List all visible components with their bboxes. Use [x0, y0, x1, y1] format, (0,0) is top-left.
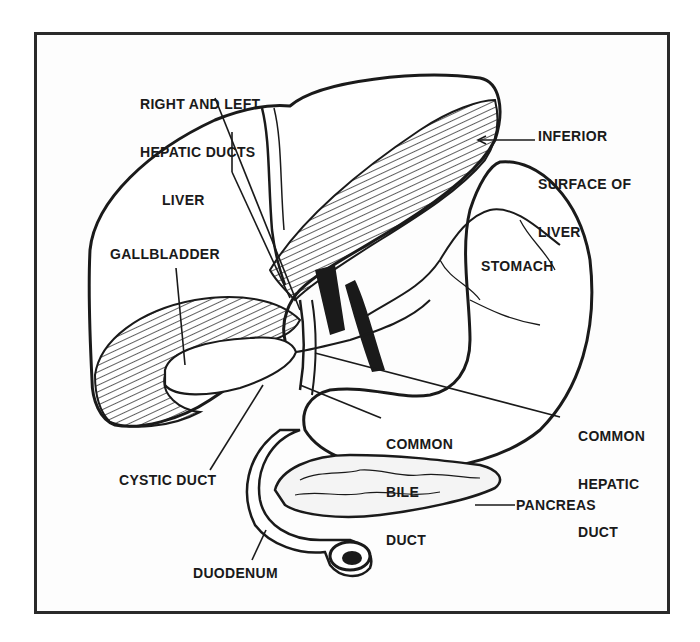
- label-line: HEPATIC: [578, 476, 645, 492]
- label-stomach: STOMACH: [481, 258, 554, 274]
- label-line: COMMON: [386, 436, 453, 452]
- label-line: RIGHT AND LEFT: [140, 96, 260, 112]
- label-line: DUCT: [578, 524, 645, 540]
- label-gallbladder: GALLBLADDER: [110, 246, 220, 262]
- label-common-bile-duct: COMMON BILE DUCT: [386, 404, 453, 564]
- label-pancreas: PANCREAS: [516, 497, 596, 513]
- ducts-and-vessels: [296, 265, 430, 395]
- label-duodenum: DUODENUM: [193, 565, 278, 581]
- label-hepatic-ducts: RIGHT AND LEFT HEPATIC DUCTS: [140, 64, 260, 176]
- label-line: BILE: [386, 484, 453, 500]
- label-liver: LIVER: [162, 192, 205, 208]
- label-line: LIVER: [538, 224, 631, 240]
- label-line: INFERIOR: [538, 128, 631, 144]
- label-line: SURFACE OF: [538, 176, 631, 192]
- label-common-hepatic-duct: COMMON HEPATIC DUCT: [578, 396, 645, 556]
- label-line: DUCT: [386, 532, 453, 548]
- label-cystic-duct: CYSTIC DUCT: [119, 472, 216, 488]
- label-inferior-surface-of-liver: INFERIOR SURFACE OF LIVER: [538, 96, 631, 256]
- label-line: HEPATIC DUCTS: [140, 144, 260, 160]
- label-line: COMMON: [578, 428, 645, 444]
